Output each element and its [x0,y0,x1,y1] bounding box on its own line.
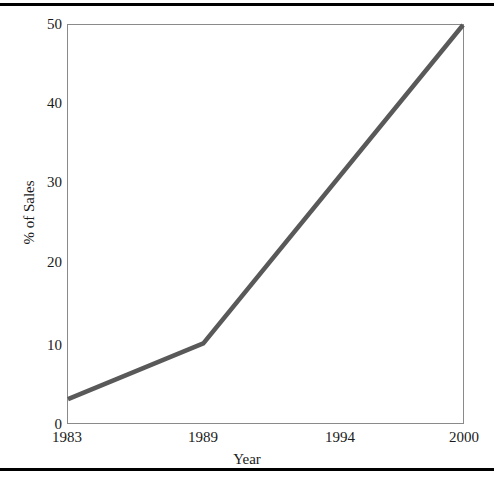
top-rule-divider [0,3,494,6]
y-tick-label-50: 50 [18,17,62,32]
x-tick-label-2000: 2000 [429,430,494,445]
bottom-rule-divider [0,468,494,471]
data-series-line [68,25,463,423]
x-tick-label-1983: 1983 [32,430,102,445]
y-axis-label: % of Sales [22,153,37,273]
series-polyline [68,25,463,399]
x-tick-label-1994: 1994 [305,430,375,445]
y-tick-label-10: 10 [18,338,62,353]
plot-area [67,24,464,424]
x-axis-label: Year [0,452,494,467]
figure-container: 0 10 20 30 40 50 1983 1989 1994 2000 % o… [0,0,494,489]
y-tick-label-40: 40 [18,96,62,111]
x-tick-label-1989: 1989 [168,430,238,445]
